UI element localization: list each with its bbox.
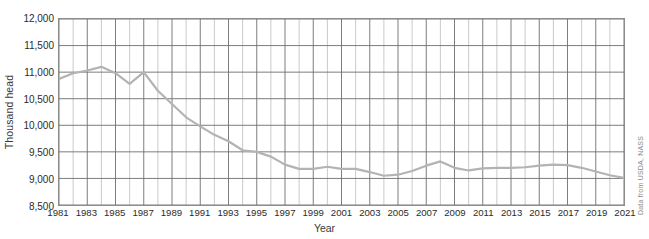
x-axis-title: Year xyxy=(0,222,649,234)
plot-area xyxy=(58,18,625,206)
x-tick-label: 1993 xyxy=(217,207,238,218)
x-tick-label: 2013 xyxy=(501,207,522,218)
x-tick-label: 1991 xyxy=(189,207,210,218)
y-tick-label: 10,500 xyxy=(23,93,54,104)
x-tick-label: 2011 xyxy=(473,207,494,218)
y-tick-label: 10,000 xyxy=(23,120,54,131)
y-tick-label: 11,000 xyxy=(24,66,54,77)
y-tick-label: 9,500 xyxy=(29,147,54,158)
x-tick-label: 2015 xyxy=(529,207,550,218)
x-tick-label: 2003 xyxy=(359,207,380,218)
x-tick-label: 2009 xyxy=(444,207,465,218)
attribution-wrap: Data from USDA, NASS xyxy=(633,120,649,230)
x-tick-label: 2007 xyxy=(416,207,437,218)
y-tick-label: 11,500 xyxy=(24,39,54,50)
x-tick-label: 2017 xyxy=(558,207,579,218)
x-tick-label: 2019 xyxy=(586,207,607,218)
plot-svg xyxy=(59,19,624,205)
x-axis-tick-labels: 1981198319851987198919911993199519971999… xyxy=(0,206,649,222)
y-axis-tick-labels: 8,5009,0009,50010,00010,50011,00011,5001… xyxy=(18,0,56,239)
x-tick-label: 2001 xyxy=(331,207,352,218)
x-tick-label: 1985 xyxy=(104,207,125,218)
x-tick-label: 1983 xyxy=(76,207,97,218)
y-tick-label: 9,000 xyxy=(29,174,54,185)
x-tick-label: 1999 xyxy=(302,207,323,218)
x-tick-label: 1997 xyxy=(274,207,295,218)
y-axis-title-wrap: Thousand head xyxy=(0,18,18,206)
y-axis-title: Thousand head xyxy=(3,75,15,149)
x-tick-label: 1989 xyxy=(161,207,182,218)
y-tick-label: 12,000 xyxy=(23,13,54,24)
x-tick-label: 1981 xyxy=(47,207,68,218)
source-attribution: Data from USDA, NASS xyxy=(638,135,645,214)
x-tick-label: 1995 xyxy=(246,207,267,218)
x-tick-label: 1987 xyxy=(132,207,153,218)
x-tick-label: 2005 xyxy=(388,207,409,218)
line-chart: Thousand head 8,5009,0009,50010,00010,50… xyxy=(0,0,649,239)
